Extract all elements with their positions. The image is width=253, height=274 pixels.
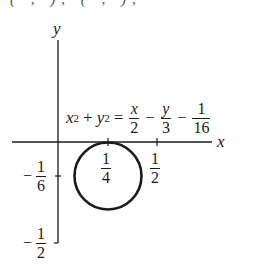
frac-den: 2 — [150, 169, 160, 186]
frac-num: y — [161, 101, 170, 118]
x-axis-label: x — [217, 133, 225, 150]
eq-frac-y-over-3: y 3 — [161, 101, 171, 136]
frac-num: x — [130, 101, 139, 118]
eq-plus: + — [83, 108, 93, 128]
frac-den: 4 — [101, 169, 111, 186]
eq-frac-1-over-16: 1 16 — [192, 101, 210, 136]
frac-den: 2 — [36, 244, 46, 261]
circle-equation: x2 + y2 = x 2 − y 3 − 1 16 — [66, 100, 212, 136]
x-tick-label-half: 1 2 — [150, 151, 160, 186]
frac-den: 16 — [192, 119, 210, 136]
frac-num: 1 — [150, 151, 160, 168]
frac-den: 2 — [129, 119, 139, 136]
x-tick-label-quarter: 1 4 — [101, 151, 111, 186]
frac-den: 3 — [161, 119, 171, 136]
y-tick-sign-sixth: − — [23, 168, 32, 184]
y-axis-label: y — [53, 20, 61, 37]
eq-frac-x-over-2: x 2 — [129, 101, 139, 136]
frac-num: 1 — [196, 101, 206, 118]
eq-minus: − — [145, 108, 155, 128]
y-tick-label-neg-sixth: 1 6 — [36, 159, 46, 194]
eq-minus: − — [177, 108, 187, 128]
y-tick-label-neg-half: 1 2 — [36, 226, 46, 261]
eq-y: y — [97, 108, 105, 128]
frac-den: 6 — [36, 177, 46, 194]
eq-y-exp: 2 — [104, 112, 110, 124]
eq-equals: = — [114, 108, 124, 128]
eq-x-exp: 2 — [74, 112, 80, 124]
frac-num: 1 — [36, 159, 46, 176]
eq-x: x — [66, 108, 74, 128]
frac-num: 1 — [101, 151, 111, 168]
y-tick-sign-half: − — [23, 235, 32, 251]
frac-num: 1 — [36, 226, 46, 243]
